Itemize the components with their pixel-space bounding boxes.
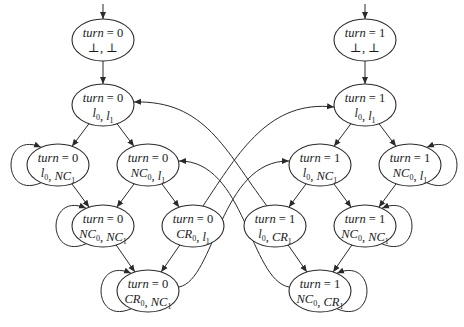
state-turn-label: turn = 0 bbox=[83, 212, 123, 226]
state-turn-label: turn = 0 bbox=[83, 26, 123, 40]
state-node-R4: turn = 1NC0, CR1 bbox=[289, 270, 351, 312]
transition-edge bbox=[288, 245, 307, 272]
state-turn-label: turn = 0 bbox=[173, 212, 213, 226]
state-turn-label: turn = 1 bbox=[300, 151, 340, 165]
state-node-R2a: turn = 1l0, NC1 bbox=[289, 144, 351, 186]
state-node-L2a: turn = 0l0, NC1 bbox=[27, 144, 89, 186]
transition-edge bbox=[117, 184, 134, 207]
state-node-R1: turn = 1l0, l1 bbox=[334, 84, 396, 126]
transition-edge bbox=[334, 124, 351, 147]
transition-edge bbox=[161, 245, 180, 272]
state-turn-label: turn = 0 bbox=[128, 277, 168, 291]
transition-edge bbox=[289, 184, 306, 207]
state-node-R0: turn = 1⊥, ⊥ bbox=[334, 19, 396, 61]
state-node-R3a: turn = 1l0, CR1 bbox=[244, 205, 306, 247]
state-turn-label: turn = 1 bbox=[345, 212, 385, 226]
state-turn-label: turn = 0 bbox=[128, 151, 168, 165]
state-node-L3a: turn = 0NC0, NC1 bbox=[72, 205, 134, 247]
transition-edge bbox=[162, 184, 179, 207]
state-node-R2b: turn = 1NC0, l1 bbox=[379, 144, 441, 186]
transition-edge bbox=[117, 124, 134, 147]
state-node-L3b: turn = 0CR0, l1 bbox=[162, 205, 224, 247]
transition-edge bbox=[116, 245, 135, 272]
state-node-L1: turn = 0l0, l1 bbox=[72, 84, 134, 126]
state-diagram: turn = 0⊥, ⊥turn = 0l0, l1turn = 0l0, NC… bbox=[0, 0, 464, 327]
state-node-L4: turn = 0CR0, NC1 bbox=[117, 270, 179, 312]
state-process-label: ⊥, ⊥ bbox=[350, 41, 380, 55]
transition-edge bbox=[379, 184, 396, 207]
state-turn-label: turn = 0 bbox=[38, 151, 78, 165]
transition-edge bbox=[334, 184, 351, 207]
transition-edge bbox=[379, 124, 396, 147]
state-turn-label: turn = 1 bbox=[300, 277, 340, 291]
transition-edge bbox=[333, 245, 352, 272]
state-turn-label: turn = 1 bbox=[345, 26, 385, 40]
state-turn-label: turn = 1 bbox=[390, 151, 430, 165]
state-node-R3b: turn = 1NC0, NC1 bbox=[334, 205, 396, 247]
state-turn-label: turn = 1 bbox=[345, 91, 385, 105]
state-turn-label: turn = 1 bbox=[255, 212, 295, 226]
state-node-L0: turn = 0⊥, ⊥ bbox=[72, 19, 134, 61]
transition-edge bbox=[72, 124, 89, 147]
state-turn-label: turn = 0 bbox=[83, 91, 123, 105]
state-node-L2b: turn = 0NC0, l1 bbox=[117, 144, 179, 186]
transition-edge bbox=[72, 184, 89, 207]
nodes-layer: turn = 0⊥, ⊥turn = 0l0, l1turn = 0l0, NC… bbox=[27, 19, 441, 312]
state-process-label: ⊥, ⊥ bbox=[88, 41, 118, 55]
